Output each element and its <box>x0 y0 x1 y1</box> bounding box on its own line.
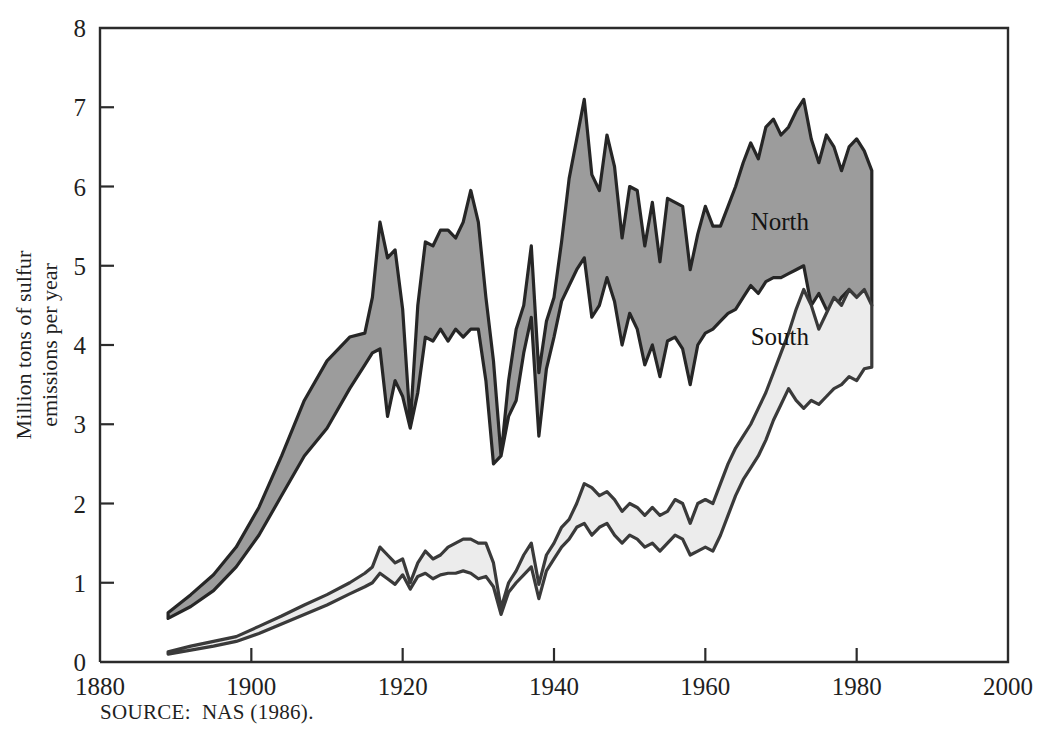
y-axis-tick-label: 7 <box>74 94 87 121</box>
source-note: SOURCE: NAS (1986). <box>100 700 314 725</box>
y-axis-title-line-2: emissions per year <box>37 262 62 426</box>
figure-container: 0123456781880190019201940196019802000 No… <box>0 0 1046 732</box>
x-axis-tick-label: 1960 <box>680 673 730 700</box>
x-axis-tick-label: 1880 <box>75 673 125 700</box>
series-label-north: North <box>751 208 810 235</box>
chart-tick-labels-group: 0123456781880190019201940196019802000 <box>74 15 1034 700</box>
y-axis-tick-label: 3 <box>74 411 87 438</box>
y-axis-tick-label: 0 <box>74 649 87 676</box>
x-axis-tick-label: 1980 <box>832 673 882 700</box>
x-axis-tick-label: 1940 <box>529 673 579 700</box>
x-axis-tick-label: 2000 <box>983 673 1033 700</box>
series-label-south: South <box>751 323 810 350</box>
y-axis-tick-label: 8 <box>74 15 87 42</box>
y-axis-tick-label: 5 <box>74 253 87 280</box>
y-axis-title-line-1: Million tons of sulfur <box>11 250 36 440</box>
y-axis-tick-label: 1 <box>74 570 87 597</box>
x-axis-tick-label: 1920 <box>378 673 428 700</box>
chart-axis-title-group: Million tons of sulfuremissions per year <box>11 250 62 440</box>
chart-bands-group <box>168 99 872 654</box>
x-axis-tick-label: 1900 <box>226 673 276 700</box>
y-axis-tick-label: 2 <box>74 491 87 518</box>
sulfur-emissions-area-chart: 0123456781880190019201940196019802000 No… <box>0 0 1046 732</box>
y-axis-tick-label: 4 <box>74 332 87 359</box>
north-band-area <box>168 99 872 618</box>
y-axis-tick-label: 6 <box>74 174 87 201</box>
